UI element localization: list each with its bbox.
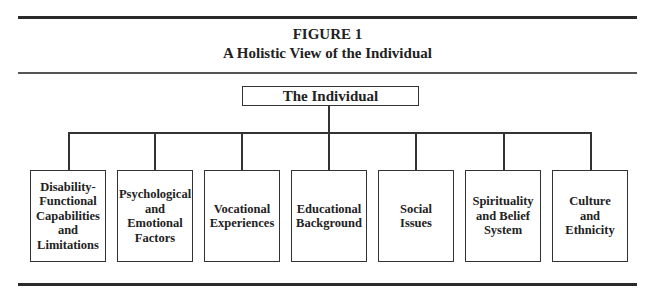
top-rule: [18, 16, 637, 19]
figure-label: FIGURE 1: [0, 26, 655, 43]
node-spirituality: Spirituality and Belief System: [465, 170, 541, 262]
node-label: Educational Background: [296, 202, 362, 231]
node-label: Disability- Functional Capabilities and …: [36, 180, 100, 253]
drop-connector-3: [241, 132, 243, 170]
title-divider: [18, 72, 637, 74]
node-educational: Educational Background: [291, 170, 367, 262]
root-connector: [328, 106, 330, 133]
drop-connector-1: [68, 132, 70, 170]
node-label: Psychological and Emotional Factors: [119, 187, 191, 245]
node-social: Social Issues: [378, 170, 454, 262]
drop-connector-7: [590, 132, 592, 170]
bottom-rule: [18, 283, 637, 286]
drop-connector-5: [415, 132, 417, 170]
root-node-the-individual: The Individual: [242, 86, 419, 106]
node-label: Spirituality and Belief System: [472, 194, 533, 238]
node-label: Culture and Ethnicity: [565, 194, 614, 238]
node-vocational: Vocational Experiences: [204, 170, 280, 262]
drop-connector-2: [154, 132, 156, 170]
drop-connector-4: [328, 132, 330, 170]
drop-connector-6: [503, 132, 505, 170]
horizontal-bus: [68, 132, 591, 134]
node-disability: Disability- Functional Capabilities and …: [30, 170, 106, 262]
node-label: Vocational Experiences: [210, 202, 275, 231]
node-label: Social Issues: [400, 202, 432, 231]
figure-title: A Holistic View of the Individual: [0, 45, 655, 62]
node-psychological: Psychological and Emotional Factors: [117, 170, 193, 262]
node-culture: Culture and Ethnicity: [552, 170, 628, 262]
